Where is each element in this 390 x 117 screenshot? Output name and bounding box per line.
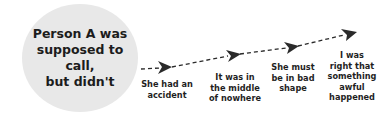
step-label-3: She must be in bad shape	[266, 62, 320, 94]
arrowhead-1-icon	[158, 61, 172, 74]
step-label-1: She had an accident	[140, 79, 194, 100]
step-label-2: It was in the middle of nowhere	[207, 72, 263, 104]
step-label-4: I was right that something awful happene…	[324, 50, 380, 103]
arrowhead-2-icon	[226, 50, 241, 62]
dashed-connector-1	[141, 68, 160, 69]
dashed-connector-2	[172, 56, 228, 67]
dashed-connector-3	[240, 48, 286, 54]
dashed-connector-4	[298, 35, 344, 46]
arrowhead-3-icon	[284, 42, 299, 54]
arrowhead-4-icon	[341, 29, 357, 41]
